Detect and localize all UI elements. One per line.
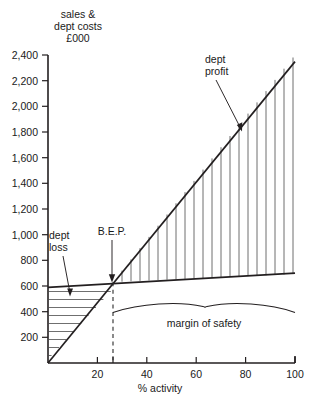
dept-loss-label-line-1: dept xyxy=(49,229,70,241)
dept-loss-leader-line xyxy=(63,256,70,293)
chart-canvas: sales & dept costs £000 2,4 xyxy=(0,0,320,398)
break-even-chart: sales & dept costs £000 2,4 xyxy=(0,0,320,398)
y-label-400: 400 xyxy=(20,306,38,318)
dept-loss-label-line-2: loss xyxy=(49,241,68,253)
x-label-80: 80 xyxy=(240,368,252,380)
margin-of-safety-label: margin of safety xyxy=(167,317,242,329)
chart-title-line-3: £000 xyxy=(66,32,90,44)
y-label-1200: 1,200 xyxy=(12,203,38,215)
y-label-2000: 2,000 xyxy=(12,100,38,112)
y-label-2400: 2,400 xyxy=(12,49,38,61)
y-label-1000: 1,000 xyxy=(12,229,38,241)
y-axis-tick-labels: 2,400 2,200 2,000 1,800 1,600 1,400 1,20… xyxy=(12,49,38,343)
y-axis-ticks xyxy=(42,55,48,337)
x-label-40: 40 xyxy=(141,368,153,380)
bep-label: B.E.P. xyxy=(98,225,126,237)
y-label-1800: 1,800 xyxy=(12,126,38,138)
dept-profit-leader-line xyxy=(216,80,240,127)
x-label-20: 20 xyxy=(92,368,104,380)
dept-loss-arrowhead xyxy=(67,288,73,296)
margin-of-safety-brace xyxy=(113,304,295,313)
y-label-600: 600 xyxy=(20,280,38,292)
x-axis-tick-labels: 20 40 60 80 100 xyxy=(92,368,304,380)
chart-title: sales & dept costs £000 xyxy=(54,8,102,44)
x-axis-ticks xyxy=(97,357,295,363)
dept-profit-label-line-1: dept xyxy=(205,53,226,65)
annotation-dept-profit: dept profit xyxy=(205,53,242,132)
y-label-200: 200 xyxy=(20,331,38,343)
y-label-1400: 1,400 xyxy=(12,177,38,189)
dept-cost-line xyxy=(48,273,295,287)
chart-title-line-1: sales & xyxy=(61,8,95,20)
dept-profit-label-line-2: profit xyxy=(205,65,228,77)
x-label-100: 100 xyxy=(286,368,304,380)
y-label-1600: 1,600 xyxy=(12,152,38,164)
x-axis-title: % activity xyxy=(138,382,183,394)
y-label-2200: 2,200 xyxy=(12,75,38,87)
x-label-60: 60 xyxy=(190,368,202,380)
y-label-800: 800 xyxy=(20,254,38,266)
chart-title-line-2: dept costs xyxy=(54,20,102,32)
